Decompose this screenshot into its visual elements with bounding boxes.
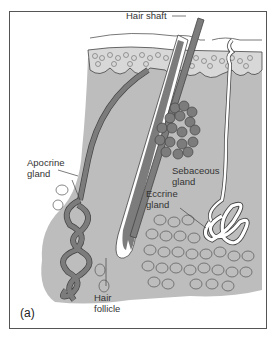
label-eccrine-line2: gland — [146, 199, 169, 210]
label-sebaceous-line1: Sebaceous — [172, 165, 220, 176]
skin-surface-line — [90, 33, 262, 40]
label-sebaceous-line2: gland — [172, 176, 195, 187]
label-follicle-line1: Hair — [94, 292, 111, 303]
label-hair-shaft: Hair shaft — [126, 10, 167, 21]
label-apocrine-line2: gland — [27, 168, 50, 179]
label-follicle-line2: follicle — [94, 303, 120, 314]
panel-label: (a) — [20, 306, 35, 320]
label-apocrine-line1: Apocrine — [27, 157, 65, 168]
label-eccrine-line1: Eccrine — [146, 188, 178, 199]
